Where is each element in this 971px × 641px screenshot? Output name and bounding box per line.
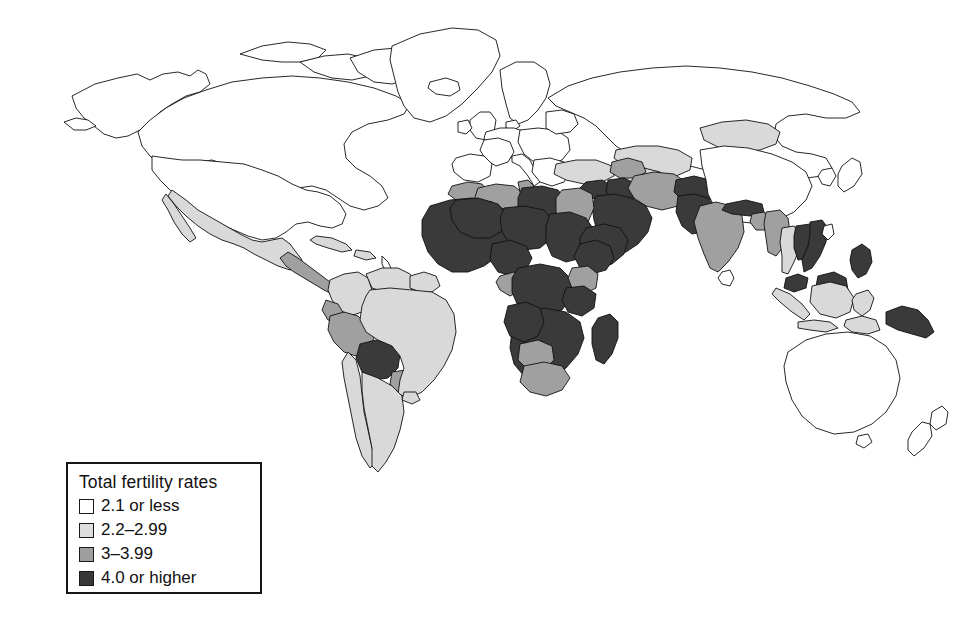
legend-label-1: 2.2–2.99 <box>101 520 167 540</box>
legend-item-4-0-or-higher: 4.0 or higher <box>79 566 260 590</box>
world-fertility-map-figure: Total fertility rates 2.1 or less 2.2–2.… <box>0 0 971 641</box>
country-uruguay <box>402 392 420 404</box>
legend-swatch-mid-grey <box>79 547 94 562</box>
island-tasmania <box>856 434 872 448</box>
legend-item-3-to-3-99: 3–3.99 <box>79 542 260 566</box>
legend-swatch-white <box>79 499 94 514</box>
country-japan <box>838 158 862 192</box>
country-tanzania <box>562 286 596 316</box>
country-new-zealand <box>908 422 932 456</box>
region-oceania <box>784 332 948 456</box>
legend-label-3: 4.0 or higher <box>101 568 196 588</box>
region-central-america <box>280 252 336 294</box>
region-guyanas <box>410 272 440 292</box>
country-cuba <box>310 236 352 252</box>
region-iberia <box>452 154 492 182</box>
island-new-zealand-north <box>930 406 948 430</box>
legend-item-2-2-to-2-99: 2.2–2.99 <box>79 518 260 542</box>
legend-swatch-dark-grey <box>79 571 94 586</box>
country-australia <box>784 332 900 434</box>
country-norway-sweden-finland <box>500 62 550 124</box>
country-philippines <box>850 244 872 278</box>
island-java <box>798 320 838 332</box>
country-greenland <box>390 28 500 122</box>
country-south-africa <box>520 362 570 396</box>
island-borneo <box>810 282 854 318</box>
island-sumatra <box>772 288 810 320</box>
country-sri-lanka <box>718 270 734 286</box>
country-malaysia <box>784 274 808 292</box>
legend-item-2-1-or-less: 2.1 or less <box>79 494 260 518</box>
map-legend: Total fertility rates 2.1 or less 2.2–2.… <box>66 462 262 594</box>
island-hispaniola <box>354 250 376 260</box>
legend-title: Total fertility rates <box>79 471 260 494</box>
legend-label-2: 3–3.99 <box>101 544 153 564</box>
legend-swatch-light-grey <box>79 523 94 538</box>
legend-label-0: 2.1 or less <box>101 496 179 516</box>
country-papua-new-guinea <box>886 306 934 338</box>
island-sulawesi <box>852 290 874 316</box>
country-madagascar <box>592 314 618 364</box>
region-south-america <box>322 268 456 472</box>
country-angola <box>504 302 544 342</box>
islands-eastern-indonesia <box>844 316 880 334</box>
